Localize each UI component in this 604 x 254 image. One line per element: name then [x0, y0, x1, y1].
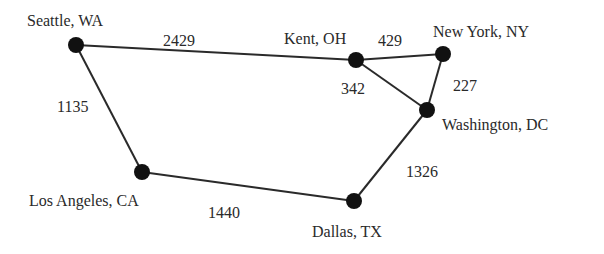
edges — [76, 45, 443, 201]
edge-weight-seattle-kent: 2429 — [163, 33, 195, 49]
node-label-losangeles: Los Angeles, CA — [29, 193, 139, 209]
node-washington — [419, 102, 435, 118]
edge-losangeles-dallas — [142, 172, 354, 201]
edge-dallas-washington — [354, 110, 427, 201]
node-label-kent: Kent, OH — [284, 31, 346, 47]
edge-weight-dallas-washington: 1326 — [406, 164, 438, 180]
node-newyork — [435, 46, 451, 62]
node-label-newyork: New York, NY — [433, 24, 529, 40]
node-seattle — [68, 37, 84, 53]
edge-kent-newyork — [356, 54, 443, 60]
nodes — [68, 37, 451, 209]
edge-weight-kent-washington: 342 — [341, 81, 365, 97]
edge-weight-losangeles-dallas: 1440 — [208, 205, 240, 221]
node-dallas — [346, 193, 362, 209]
node-label-dallas: Dallas, TX — [312, 224, 382, 240]
node-label-seattle: Seattle, WA — [27, 13, 103, 29]
node-losangeles — [134, 164, 150, 180]
edge-kent-washington — [356, 60, 427, 110]
edge-weight-seattle-losangeles: 1135 — [57, 99, 88, 115]
edge-newyork-washington — [427, 54, 443, 110]
edge-weight-kent-newyork: 429 — [378, 33, 402, 49]
node-kent — [348, 52, 364, 68]
node-label-washington: Washington, DC — [442, 117, 548, 133]
edge-seattle-kent — [76, 45, 356, 60]
edge-weight-newyork-washington: 227 — [453, 78, 477, 94]
